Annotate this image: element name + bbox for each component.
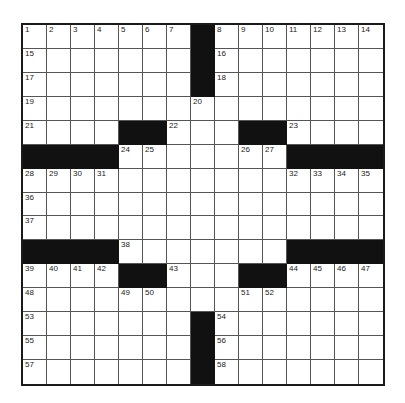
grid-cell[interactable]: 55 — [23, 336, 47, 360]
grid-cell[interactable] — [335, 193, 359, 217]
grid-cell[interactable] — [239, 73, 263, 97]
grid-cell[interactable] — [71, 360, 95, 384]
grid-cell[interactable]: 23 — [287, 121, 311, 145]
grid-cell[interactable] — [215, 193, 239, 217]
grid-cell[interactable] — [335, 312, 359, 336]
grid-cell[interactable] — [191, 121, 215, 145]
grid-cell[interactable] — [95, 288, 119, 312]
grid-cell[interactable]: 42 — [95, 264, 119, 288]
grid-cell[interactable] — [71, 97, 95, 121]
grid-cell[interactable] — [191, 288, 215, 312]
grid-cell[interactable] — [335, 97, 359, 121]
grid-cell[interactable] — [47, 193, 71, 217]
grid-cell[interactable] — [119, 169, 143, 193]
grid-cell[interactable] — [239, 193, 263, 217]
grid-cell[interactable]: 52 — [263, 288, 287, 312]
grid-cell[interactable] — [215, 121, 239, 145]
grid-cell[interactable]: 25 — [143, 145, 167, 169]
grid-cell[interactable]: 33 — [311, 169, 335, 193]
grid-cell[interactable] — [239, 240, 263, 264]
grid-cell[interactable] — [47, 216, 71, 240]
grid-cell[interactable] — [263, 193, 287, 217]
grid-cell[interactable] — [167, 312, 191, 336]
grid-cell[interactable] — [239, 216, 263, 240]
grid-cell[interactable] — [47, 360, 71, 384]
grid-cell[interactable] — [239, 169, 263, 193]
grid-cell[interactable] — [191, 169, 215, 193]
grid-cell[interactable] — [47, 288, 71, 312]
grid-cell[interactable] — [167, 97, 191, 121]
grid-cell[interactable] — [287, 216, 311, 240]
grid-cell[interactable]: 48 — [23, 288, 47, 312]
grid-cell[interactable] — [311, 121, 335, 145]
grid-cell[interactable] — [311, 97, 335, 121]
grid-cell[interactable] — [119, 97, 143, 121]
grid-cell[interactable] — [119, 49, 143, 73]
grid-cell[interactable] — [215, 145, 239, 169]
grid-cell[interactable] — [263, 216, 287, 240]
grid-cell[interactable]: 45 — [311, 264, 335, 288]
grid-cell[interactable] — [143, 169, 167, 193]
grid-cell[interactable] — [335, 121, 359, 145]
grid-cell[interactable] — [263, 169, 287, 193]
grid-cell[interactable] — [119, 73, 143, 97]
grid-cell[interactable]: 12 — [311, 25, 335, 49]
grid-cell[interactable] — [239, 312, 263, 336]
grid-cell[interactable] — [287, 193, 311, 217]
grid-cell[interactable] — [143, 49, 167, 73]
grid-cell[interactable] — [215, 288, 239, 312]
grid-cell[interactable] — [95, 312, 119, 336]
grid-cell[interactable] — [119, 312, 143, 336]
grid-cell[interactable] — [167, 288, 191, 312]
grid-cell[interactable] — [95, 73, 119, 97]
grid-cell[interactable] — [95, 49, 119, 73]
grid-cell[interactable]: 29 — [47, 169, 71, 193]
grid-cell[interactable] — [287, 312, 311, 336]
grid-cell[interactable]: 14 — [359, 25, 383, 49]
grid-cell[interactable] — [287, 49, 311, 73]
grid-cell[interactable]: 56 — [215, 336, 239, 360]
grid-cell[interactable] — [287, 288, 311, 312]
grid-cell[interactable] — [263, 336, 287, 360]
grid-cell[interactable]: 3 — [71, 25, 95, 49]
grid-cell[interactable] — [47, 73, 71, 97]
grid-cell[interactable]: 34 — [335, 169, 359, 193]
grid-cell[interactable] — [143, 193, 167, 217]
grid-cell[interactable] — [47, 312, 71, 336]
grid-cell[interactable] — [143, 336, 167, 360]
grid-cell[interactable] — [95, 216, 119, 240]
grid-cell[interactable] — [71, 49, 95, 73]
grid-cell[interactable]: 36 — [23, 193, 47, 217]
grid-cell[interactable]: 37 — [23, 216, 47, 240]
grid-cell[interactable] — [335, 360, 359, 384]
grid-cell[interactable]: 10 — [263, 25, 287, 49]
grid-cell[interactable] — [263, 240, 287, 264]
grid-cell[interactable]: 22 — [167, 121, 191, 145]
grid-cell[interactable] — [71, 73, 95, 97]
grid-cell[interactable] — [311, 288, 335, 312]
grid-cell[interactable] — [335, 73, 359, 97]
grid-cell[interactable]: 15 — [23, 49, 47, 73]
grid-cell[interactable] — [95, 360, 119, 384]
grid-cell[interactable]: 53 — [23, 312, 47, 336]
grid-cell[interactable]: 32 — [287, 169, 311, 193]
grid-cell[interactable]: 8 — [215, 25, 239, 49]
grid-cell[interactable]: 24 — [119, 145, 143, 169]
grid-cell[interactable] — [239, 97, 263, 121]
grid-cell[interactable] — [311, 193, 335, 217]
grid-cell[interactable] — [263, 73, 287, 97]
grid-cell[interactable] — [191, 216, 215, 240]
grid-cell[interactable] — [359, 288, 383, 312]
grid-cell[interactable] — [167, 193, 191, 217]
grid-cell[interactable] — [143, 240, 167, 264]
grid-cell[interactable] — [359, 216, 383, 240]
grid-cell[interactable] — [287, 73, 311, 97]
grid-cell[interactable] — [71, 288, 95, 312]
grid-cell[interactable] — [191, 240, 215, 264]
grid-cell[interactable] — [119, 216, 143, 240]
grid-cell[interactable]: 4 — [95, 25, 119, 49]
grid-cell[interactable] — [143, 312, 167, 336]
grid-cell[interactable]: 20 — [191, 97, 215, 121]
grid-cell[interactable] — [263, 49, 287, 73]
grid-cell[interactable] — [143, 216, 167, 240]
